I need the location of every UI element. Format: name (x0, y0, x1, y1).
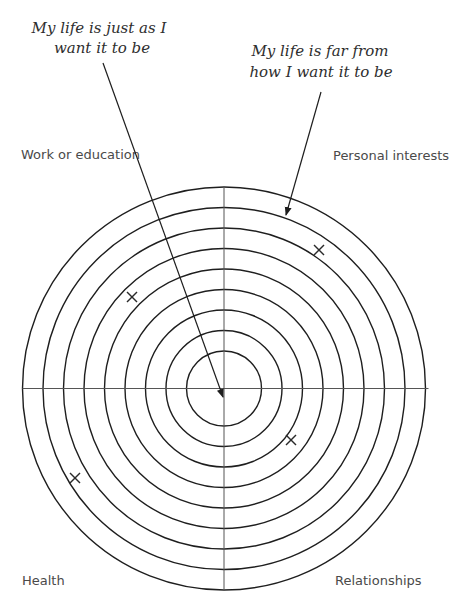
quote-center-line-2: want it to be (54, 39, 150, 57)
sector-label-personal-interests: Personal interests (333, 148, 449, 163)
sector-label-health: Health (22, 573, 65, 588)
x-mark-icon (127, 292, 137, 302)
arrow-to-center-icon (103, 63, 223, 397)
sector-label-work-or-education: Work or education (21, 147, 140, 162)
quote-center-line-1: My life is just as I (31, 19, 168, 37)
quote-edge-meaning: My life is far from how I want it to be (249, 42, 392, 81)
x-mark-icon (70, 473, 80, 483)
x-mark-icon (286, 435, 296, 445)
arrow-to-edge-icon (286, 92, 321, 215)
satisfaction-marks (70, 245, 324, 483)
life-wheel-diagram: My life is just as I want it to be My li… (0, 0, 453, 612)
sector-label-relationships: Relationships (335, 573, 422, 588)
quote-edge-line-1: My life is far from (250, 42, 388, 60)
quote-center-meaning: My life is just as I want it to be (31, 19, 168, 57)
quote-edge-line-2: how I want it to be (249, 63, 392, 81)
x-mark-icon (314, 245, 324, 255)
